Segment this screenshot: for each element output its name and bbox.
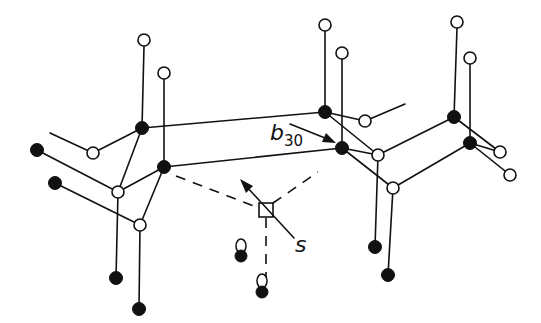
diagram-canvas: b30 s xyxy=(0,0,541,323)
lone-pairs xyxy=(235,239,268,298)
bonds xyxy=(37,28,510,309)
s-label: s xyxy=(295,232,306,257)
structure-diagram: b30 s xyxy=(0,0,541,323)
b30-label: b30 xyxy=(270,120,303,150)
filled-atoms xyxy=(31,106,477,316)
interlayer-site xyxy=(240,179,294,238)
